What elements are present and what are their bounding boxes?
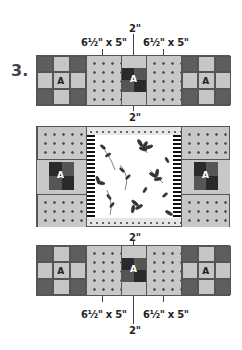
bottom-left-leader-line: [102, 296, 103, 302]
block-a-label: A: [130, 74, 137, 84]
dotted-rectangle-left: [86, 246, 122, 295]
top-right-dimension: 6½" x 5": [143, 37, 189, 48]
top-center-dimension: 2": [129, 23, 141, 34]
bottom-center-dimension: 2": [129, 325, 141, 336]
bottom-center-leader-line: [133, 296, 134, 324]
bottom-pieced-row: A A A: [36, 245, 230, 296]
dotted-block-left-bottom: [37, 194, 87, 227]
step-number: 3.: [11, 61, 28, 80]
gap-2-dimension: 2": [129, 232, 141, 243]
top-center-leader-line: [133, 34, 134, 56]
dotted-block-right-bottom: [181, 194, 230, 227]
block-a-label: A: [57, 266, 64, 276]
nine-patch-block-left: A: [37, 246, 86, 295]
bottom-left-dimension: 6½" x 5": [81, 309, 127, 320]
dotted-rectangle-left: [86, 56, 122, 105]
dotted-block-left-top: [37, 127, 87, 160]
block-a-label: A: [202, 76, 209, 86]
center-a-strip: A: [122, 246, 146, 295]
top-left-dimension: 6½" x 5": [81, 37, 127, 48]
block-a-label: A: [202, 170, 209, 180]
a-block-right: A: [181, 160, 230, 194]
middle-center-row: A A: [36, 126, 230, 227]
a-block-left: A: [37, 160, 87, 194]
nine-patch-block-right: A: [182, 246, 231, 295]
striped-border-left: [87, 135, 95, 218]
dotted-block-right-top: [181, 127, 230, 160]
block-a-label: A: [57, 76, 64, 86]
dotted-border-bottom: [87, 218, 181, 226]
bottom-right-leader-line: [163, 296, 164, 302]
gap1-leader-line: [133, 106, 134, 111]
gap-1-dimension: 2": [129, 112, 141, 123]
leaf-print-icon: [95, 135, 173, 218]
block-a-label: A: [57, 170, 64, 180]
top-pieced-row: A A A: [36, 55, 230, 106]
block-a-label: A: [130, 264, 137, 274]
striped-border-right: [173, 135, 181, 218]
nine-patch-block-right: A: [182, 56, 231, 105]
bottom-right-dimension: 6½" x 5": [143, 309, 189, 320]
nine-patch-block-left: A: [37, 56, 86, 105]
dotted-rectangle-right: [146, 56, 182, 105]
block-a-label: A: [202, 266, 209, 276]
floral-center-panel: [95, 135, 173, 218]
center-a-strip: A: [122, 56, 146, 105]
dotted-rectangle-right: [146, 246, 182, 295]
dotted-border-top: [87, 127, 181, 135]
